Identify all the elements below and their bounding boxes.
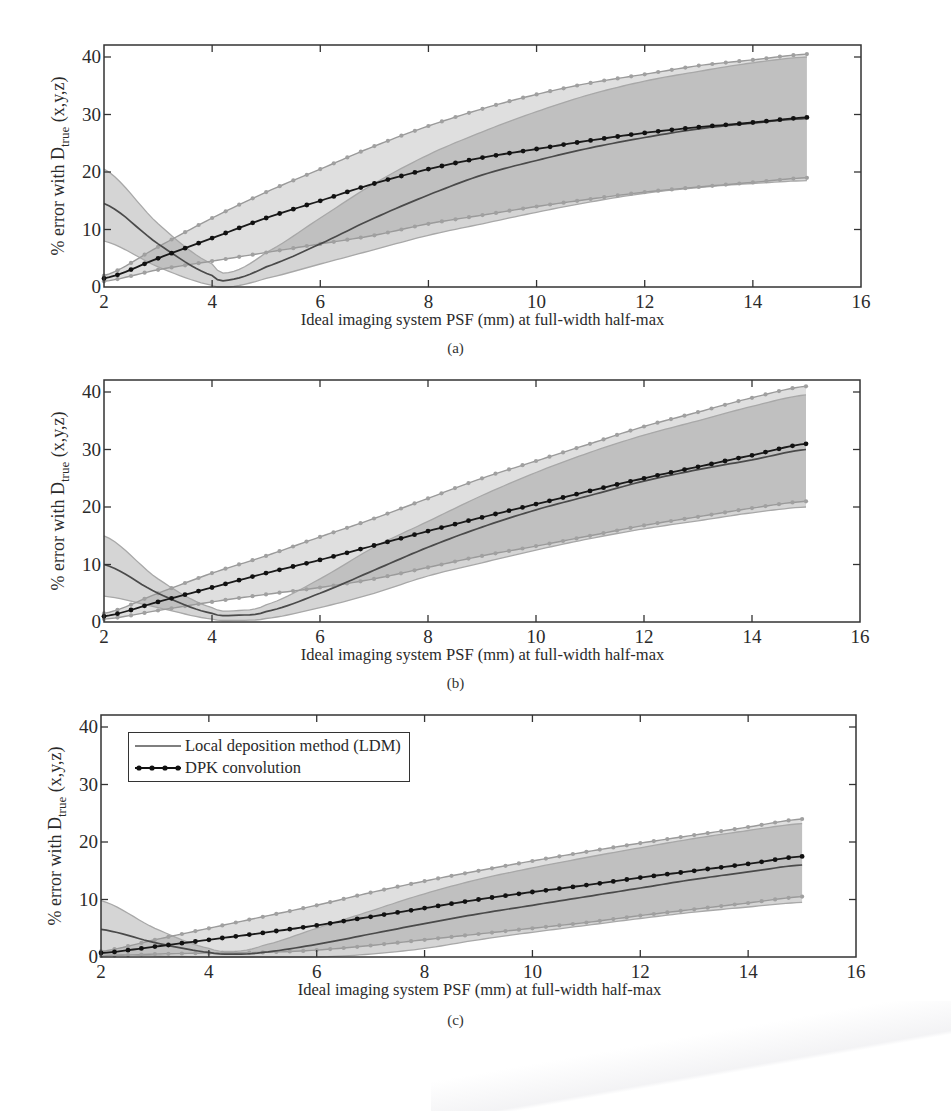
x-tick-label: 10 [523,961,542,982]
y-tick-label: 10 [79,889,98,910]
dpk-marker-line-swatch-icon [135,761,181,775]
x-tick-label: 16 [847,961,866,982]
x-tick-label: 8 [420,961,430,982]
y-tick-label: 20 [79,831,98,852]
ldm-line-swatch-icon [135,739,181,753]
x-tick-label: 12 [631,961,650,982]
panel-caption-c: (c) [0,1012,911,1029]
legend-label-ldm: Local deposition method (LDM) [185,735,401,757]
x-axis-label-c: Ideal imaging system PSF (mm) at full-wi… [101,980,858,1000]
legend: Local deposition method (LDM) DPK convol… [128,732,410,782]
x-tick-label: 14 [739,961,759,982]
y-axis-label: % error with Dtrue (x,y,z) [45,746,69,925]
y-tick-label: 40 [79,716,98,737]
x-tick-label: 4 [204,961,214,982]
legend-label-dpk: DPK convolution [185,757,301,779]
legend-item-dpk: DPK convolution [135,757,401,779]
legend-item-ldm: Local deposition method (LDM) [135,735,401,757]
y-tick-label: 30 [79,774,98,795]
x-tick-label: 6 [312,961,322,982]
y-tick-label: 0 [89,946,99,967]
